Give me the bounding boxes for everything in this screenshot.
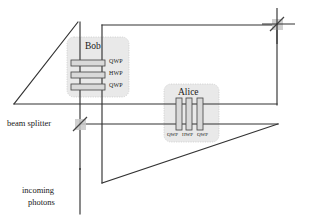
bob-plate-label-2: QWP xyxy=(109,82,123,88)
alice-label: Alice xyxy=(178,88,199,98)
incoming-photons-label-line2: photons xyxy=(28,198,55,207)
alice-plate-2[interactable] xyxy=(197,98,203,130)
beam-splitter-label: beam splitter xyxy=(7,119,51,128)
bob-plate-2[interactable] xyxy=(71,84,105,90)
incoming-photons-label-line1: incoming xyxy=(22,186,54,195)
alice-waveplates xyxy=(176,98,203,130)
mirror[interactable] xyxy=(262,8,295,44)
alice-plate-label-0: QWP xyxy=(167,132,178,137)
beam-splitter-shadow xyxy=(75,119,86,130)
bob-plate-0[interactable] xyxy=(71,60,105,66)
incoming-beam-marker xyxy=(79,168,81,170)
beam-splitter[interactable] xyxy=(73,117,87,131)
bob-plate-label-1: HWP xyxy=(109,70,123,76)
figure-canvas: Bob Alice QWP HWP QWP QWP HWP QWP beam s… xyxy=(0,0,311,220)
alice-plate-0[interactable] xyxy=(176,98,182,130)
alice-plate-1[interactable] xyxy=(186,98,192,130)
bob-plate-label-0: QWP xyxy=(109,58,123,64)
alice-plate-label-1: HWP xyxy=(182,132,193,137)
bob-plate-1[interactable] xyxy=(71,72,105,78)
alice-plate-label-2: QWP xyxy=(197,132,208,137)
bob-label: Bob xyxy=(85,42,101,52)
bob-waveplates xyxy=(71,60,105,90)
